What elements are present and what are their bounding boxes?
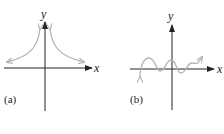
figure: x y (a) x y (b) [0,0,224,134]
panel-caption: (b) [130,93,143,106]
panel-b: x y (b) [130,9,223,110]
panel-a: x y (a) [4,7,100,111]
x-axis-label: x [216,62,223,76]
curve-left [7,29,40,62]
y-axis-label: y [167,9,174,23]
y-axis-label: y [40,7,47,21]
curve-right [50,29,84,62]
x-axis-label: x [93,61,100,75]
panel-caption: (a) [4,93,17,106]
wave-curve [140,57,202,77]
